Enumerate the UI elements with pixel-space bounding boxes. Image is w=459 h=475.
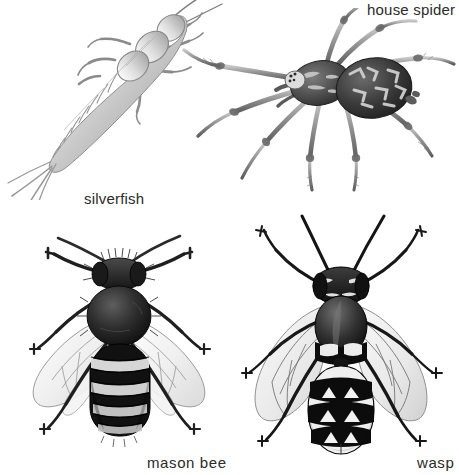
- label-silverfish: silverfish: [84, 191, 144, 206]
- figure-wasp: [240, 214, 459, 459]
- figure-mason-bee: [20, 232, 230, 457]
- label-wasp: wasp: [417, 455, 454, 470]
- label-mason-bee: mason bee: [147, 455, 227, 470]
- wasp-drawing: [242, 216, 442, 454]
- label-house-spider: house spider: [367, 2, 455, 17]
- mason-bee-drawing: [30, 236, 210, 447]
- figure-house-spider: [178, 8, 459, 193]
- illustration-plate: house spider silverfish mason bee wasp: [0, 0, 459, 475]
- house-spider-drawing: [184, 8, 454, 190]
